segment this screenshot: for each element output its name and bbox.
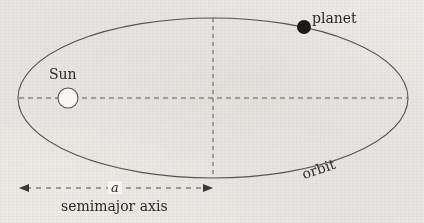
diagram-canvas bbox=[0, 0, 424, 223]
semimajor-axis-caption: semimajor axis bbox=[61, 199, 168, 213]
planet-icon bbox=[297, 20, 311, 34]
arrowhead-right-icon bbox=[203, 184, 213, 192]
arrowhead-left-icon bbox=[19, 184, 29, 192]
semimajor-axis-symbol: a bbox=[108, 181, 122, 194]
sun-icon bbox=[58, 88, 78, 108]
sun-label: Sun bbox=[49, 67, 77, 81]
orbit-diagram-figure: planet Sun orbit a semimajor axis bbox=[0, 0, 424, 223]
planet-label: planet bbox=[312, 11, 357, 25]
